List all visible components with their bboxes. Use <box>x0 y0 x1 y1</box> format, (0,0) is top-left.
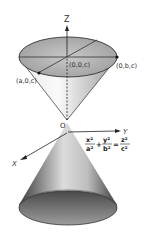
y-arrow-icon <box>115 129 121 133</box>
x-axis-label: X <box>11 160 17 168</box>
point-label-b: (0,b,c) <box>116 62 137 70</box>
eq-z-num: z² <box>121 136 128 144</box>
eq-b-den: b² <box>103 145 111 153</box>
eq-c-den: c² <box>121 145 128 153</box>
eq-equals: = <box>113 141 119 149</box>
eq-a-den: a² <box>86 145 93 153</box>
origin-label: O <box>60 122 66 130</box>
cone-equation: x² a² + y² b² = z² c² <box>85 136 130 153</box>
base-ellipse <box>19 191 117 225</box>
eq-plus: + <box>96 141 102 149</box>
point-a-marker <box>37 71 40 74</box>
x-arrow-icon <box>20 155 27 160</box>
z-arrow-icon <box>65 25 69 31</box>
z-axis-label: Z <box>64 15 70 24</box>
point-b-marker <box>115 55 118 58</box>
y-axis-label: Y <box>123 128 128 136</box>
cone-diagram: Z O Y X (0,0,c) (a,0,c) (0,b,c) x² a² + … <box>0 0 145 237</box>
y-axis <box>68 131 117 132</box>
point-label-center: (0,0,c) <box>69 61 90 69</box>
eq-x-num: x² <box>86 136 93 144</box>
point-label-a: (a,0,c) <box>16 77 37 85</box>
eq-y-num: y² <box>103 136 110 144</box>
